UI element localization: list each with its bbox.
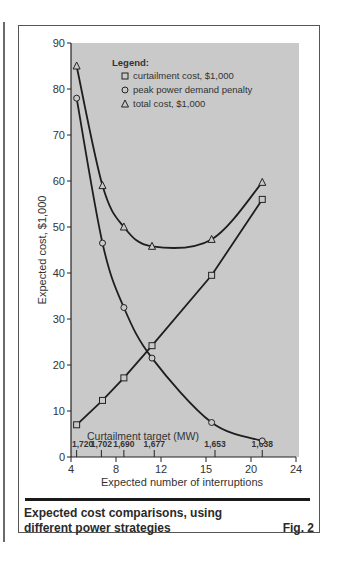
square-marker-icon — [122, 73, 128, 79]
square-marker-icon — [149, 343, 155, 349]
legend-title: Legend: — [112, 57, 149, 68]
legend-item: total cost, $1,000 — [133, 98, 205, 109]
square-marker-icon — [121, 375, 127, 381]
y-tick-label: 10 — [53, 405, 65, 417]
circle-marker-icon — [74, 95, 80, 101]
x-tick-label: 15 — [200, 463, 212, 475]
curtailment-target-label: Curtailment target (MW) — [87, 430, 199, 442]
circle-marker-icon — [122, 87, 128, 93]
y-tick-label: 30 — [53, 313, 65, 325]
y-tick-label: 50 — [53, 221, 65, 233]
caption-line-1: Expected cost comparisons, using — [24, 506, 314, 521]
circle-marker-icon — [259, 438, 265, 444]
x-tick-label: 4 — [68, 463, 74, 475]
figure-caption: Expected cost comparisons, using differe… — [24, 506, 314, 536]
square-marker-icon — [100, 397, 106, 403]
x-tick-label: 24 — [290, 463, 302, 475]
legend-item: peak power demand penalty — [133, 84, 253, 95]
x-tick-label: 20 — [245, 463, 257, 475]
y-axis-label: Expected cost, $1,000 — [36, 196, 48, 305]
legend-item: curtailment cost, $1,000 — [133, 70, 234, 81]
y-tick-label: 70 — [53, 129, 65, 141]
cost-comparison-chart: 010203040506070809048121520241,7201,7021… — [0, 0, 338, 563]
circle-marker-icon — [121, 305, 127, 311]
y-tick-label: 60 — [53, 175, 65, 187]
circle-marker-icon — [149, 355, 155, 361]
circle-marker-icon — [100, 240, 106, 246]
caption-line-2: different power strategies — [24, 521, 314, 536]
y-tick-label: 0 — [59, 451, 65, 463]
y-tick-label: 40 — [53, 267, 65, 279]
curtailment-tick-label: 1,653 — [204, 439, 226, 449]
square-marker-icon — [259, 196, 265, 202]
x-tick-label: 8 — [113, 463, 119, 475]
circle-marker-icon — [209, 420, 215, 426]
x-axis-label: Expected number of interruptions — [101, 476, 264, 488]
x-tick-label: 12 — [155, 463, 167, 475]
y-tick-label: 80 — [53, 83, 65, 95]
y-tick-label: 20 — [53, 359, 65, 371]
figure-number: Fig. 2 — [283, 521, 314, 535]
square-marker-icon — [74, 422, 80, 428]
square-marker-icon — [209, 272, 215, 278]
caption-divider — [25, 498, 310, 501]
y-tick-label: 90 — [53, 37, 65, 49]
